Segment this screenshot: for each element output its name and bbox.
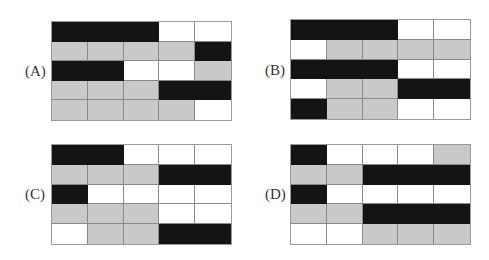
option-grid-a bbox=[51, 21, 232, 121]
grid-cell bbox=[195, 42, 231, 62]
grid-cell bbox=[52, 22, 88, 42]
grid-cell bbox=[363, 165, 399, 185]
grid-cell bbox=[52, 42, 88, 62]
grid-cell bbox=[124, 100, 160, 120]
grid-cell bbox=[195, 100, 231, 120]
grid-cell bbox=[291, 204, 327, 224]
grid-cell bbox=[88, 81, 124, 101]
grid-cell bbox=[363, 99, 399, 119]
grid-cell bbox=[159, 100, 195, 120]
grid-cell bbox=[398, 99, 434, 119]
grid-cell bbox=[398, 145, 434, 165]
option-label-b: (B) bbox=[265, 63, 285, 78]
grid-cell bbox=[159, 145, 195, 165]
grid-cell bbox=[159, 22, 195, 42]
grid-cell bbox=[327, 79, 363, 99]
grid-cell bbox=[88, 224, 124, 244]
grid-cell bbox=[398, 40, 434, 60]
grid-cell bbox=[363, 145, 399, 165]
option-grid-b bbox=[290, 19, 471, 120]
grid-cell bbox=[434, 20, 470, 40]
grid-cell bbox=[363, 224, 399, 244]
grid-cell bbox=[159, 165, 195, 185]
grid-cell bbox=[88, 42, 124, 62]
grid-cell bbox=[434, 224, 470, 244]
grid-cell bbox=[124, 185, 160, 205]
grid-cell bbox=[363, 185, 399, 205]
grid-cell bbox=[88, 165, 124, 185]
grid-cell bbox=[291, 224, 327, 244]
grid-cell bbox=[434, 145, 470, 165]
grid-cell bbox=[398, 60, 434, 80]
grid-cell bbox=[327, 20, 363, 40]
option-grid-c bbox=[51, 144, 232, 245]
grid-cell bbox=[291, 99, 327, 119]
grid-cell bbox=[195, 22, 231, 42]
grid-cell bbox=[434, 99, 470, 119]
grid-cell bbox=[195, 185, 231, 205]
option-label-a: (A) bbox=[25, 64, 46, 79]
grid-cell bbox=[327, 60, 363, 80]
grid-cell bbox=[398, 224, 434, 244]
grid-cell bbox=[159, 224, 195, 244]
grid-cell bbox=[363, 79, 399, 99]
grid-cell bbox=[88, 204, 124, 224]
grid-cell bbox=[124, 22, 160, 42]
grid-cell bbox=[291, 79, 327, 99]
grid-cell bbox=[291, 165, 327, 185]
grid-cell bbox=[52, 204, 88, 224]
grid-cell bbox=[52, 100, 88, 120]
grid-cell bbox=[159, 61, 195, 81]
grid-cell bbox=[327, 99, 363, 119]
grid-cell bbox=[363, 20, 399, 40]
grid-cell bbox=[124, 61, 160, 81]
grid-cell bbox=[88, 61, 124, 81]
grid-cell bbox=[195, 224, 231, 244]
grid-cell bbox=[159, 204, 195, 224]
grid-cell bbox=[195, 61, 231, 81]
grid-cell bbox=[363, 40, 399, 60]
grid-cell bbox=[291, 145, 327, 165]
grid-cell bbox=[291, 185, 327, 205]
grid-cell bbox=[124, 145, 160, 165]
grid-cell bbox=[195, 81, 231, 101]
grid-cell bbox=[398, 165, 434, 185]
grid-cell bbox=[398, 20, 434, 40]
option-label-d: (D) bbox=[265, 187, 286, 202]
grid-cell bbox=[434, 60, 470, 80]
grid-cell bbox=[52, 224, 88, 244]
grid-cell bbox=[124, 81, 160, 101]
grid-cell bbox=[124, 204, 160, 224]
grid-cell bbox=[159, 185, 195, 205]
grid-cell bbox=[434, 204, 470, 224]
grid-cell bbox=[398, 204, 434, 224]
grid-cell bbox=[88, 185, 124, 205]
grid-cell bbox=[88, 100, 124, 120]
grid-cell bbox=[195, 165, 231, 185]
grid-cell bbox=[327, 204, 363, 224]
grid-cell bbox=[434, 185, 470, 205]
grid-cell bbox=[291, 20, 327, 40]
option-grid-d bbox=[290, 144, 471, 245]
grid-cell bbox=[88, 145, 124, 165]
grid-cell bbox=[434, 79, 470, 99]
grid-cell bbox=[52, 165, 88, 185]
grid-cell bbox=[327, 165, 363, 185]
grid-cell bbox=[159, 42, 195, 62]
grid-cell bbox=[88, 22, 124, 42]
option-label-c: (C) bbox=[25, 187, 45, 202]
grid-cell bbox=[327, 145, 363, 165]
grid-cell bbox=[363, 60, 399, 80]
grid-cell bbox=[195, 145, 231, 165]
grid-cell bbox=[124, 224, 160, 244]
grid-cell bbox=[124, 165, 160, 185]
grid-cell bbox=[291, 60, 327, 80]
grid-cell bbox=[124, 42, 160, 62]
grid-cell bbox=[363, 204, 399, 224]
grid-cell bbox=[52, 185, 88, 205]
grid-cell bbox=[52, 81, 88, 101]
grid-cell bbox=[327, 185, 363, 205]
grid-cell bbox=[159, 81, 195, 101]
grid-cell bbox=[52, 61, 88, 81]
grid-cell bbox=[52, 145, 88, 165]
